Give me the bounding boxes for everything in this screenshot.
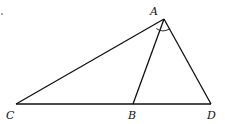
label-d: D — [206, 109, 216, 122]
label-a: A — [149, 5, 158, 18]
triangle-diagram: A C B D — [0, 0, 225, 124]
segment-ad — [164, 19, 211, 104]
angle-arc-a — [156, 29, 169, 31]
label-c: C — [6, 109, 15, 122]
segment-ab — [133, 19, 164, 104]
stray-dot — [1, 13, 3, 15]
label-b: B — [127, 109, 136, 122]
segment-ac — [16, 19, 164, 104]
